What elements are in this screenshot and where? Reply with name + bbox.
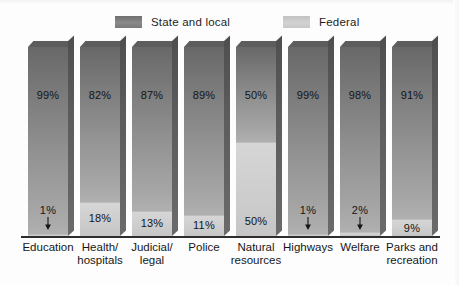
bar-value-federal: 13% — [132, 217, 172, 229]
bar-value-state-and-local: 87% — [132, 89, 172, 101]
bar-value-state-and-local: 98% — [340, 89, 380, 101]
category-label-highways: Highways — [279, 241, 337, 254]
bar-value-state-and-local: 89% — [184, 89, 224, 101]
bar-side-face — [380, 36, 386, 236]
category-label-health-hospitals: Health/ hospitals — [71, 241, 129, 267]
bar-health-hospitals[interactable]: 82%18% — [80, 47, 120, 236]
bar-parks-and-recreation[interactable]: 91%9% — [392, 47, 432, 236]
bar-side-face — [432, 36, 438, 236]
bar-segment-state-and-local: 89% — [184, 47, 224, 215]
bar-value-federal: 9% — [392, 222, 432, 234]
bar-segment-federal: 18% — [80, 202, 120, 236]
bar-value-state-and-local: 99% — [28, 89, 68, 101]
bar-segment-state-and-local: 91% — [392, 47, 432, 219]
bar-side-face — [172, 36, 178, 236]
down-arrow-icon — [357, 217, 364, 230]
category-label-welfare: Welfare — [331, 241, 389, 254]
bar-value-federal: 1% — [288, 204, 328, 216]
bar-segment-state-and-local: 82% — [80, 47, 120, 202]
bar-police[interactable]: 89%11% — [184, 47, 224, 236]
category-label-education: Education — [19, 241, 77, 254]
down-arrow-icon — [45, 217, 52, 230]
bar-value-federal-text: 1% — [300, 204, 316, 216]
bar-value-federal: 1% — [28, 204, 68, 216]
category-label-police: Police — [175, 241, 233, 254]
bar-segment-state-and-local: 87% — [132, 47, 172, 211]
stacked-bar-chart: State and local Federal 99%82%18%87%13%8… — [0, 0, 459, 285]
bar-segment-federal: 50% — [236, 142, 276, 237]
bar-value-federal: 50% — [236, 215, 276, 227]
bar-segment-state-and-local: 50% — [236, 47, 276, 142]
down-arrow-icon — [305, 217, 312, 230]
bar-segment-federal: 11% — [184, 215, 224, 236]
bar-value-state-and-local: 82% — [80, 89, 120, 101]
bar-judicial-legal[interactable]: 87%13% — [132, 47, 172, 236]
bar-segment-federal: 13% — [132, 211, 172, 236]
bar-side-face — [68, 36, 74, 236]
bar-value-federal: 2% — [340, 204, 380, 216]
bar-value-federal: 11% — [184, 219, 224, 231]
bar-value-federal-text: 2% — [352, 204, 368, 216]
bar-value-state-and-local: 99% — [288, 89, 328, 101]
category-label-judicial-legal: Judicial/ legal — [123, 241, 181, 267]
bar-side-face — [276, 36, 282, 236]
plot-area: 99%82%18%87%13%89%11%50%50%99%98%91%9% 1… — [0, 0, 459, 285]
axis-baseline — [21, 236, 440, 238]
bar-natural-resources[interactable]: 50%50% — [236, 47, 276, 236]
bar-segment-federal: 9% — [392, 219, 432, 236]
bar-value-federal-text: 1% — [40, 204, 56, 216]
bar-side-face — [328, 36, 334, 236]
category-label-natural-resources: Natural resources — [227, 241, 285, 267]
bar-value-state-and-local: 91% — [392, 89, 432, 101]
bar-side-face — [120, 36, 126, 236]
bar-value-federal: 18% — [80, 212, 120, 224]
bar-value-state-and-local: 50% — [236, 89, 276, 101]
bar-side-face — [224, 36, 230, 236]
category-label-parks-and-recreation: Parks and recreation — [383, 241, 441, 267]
